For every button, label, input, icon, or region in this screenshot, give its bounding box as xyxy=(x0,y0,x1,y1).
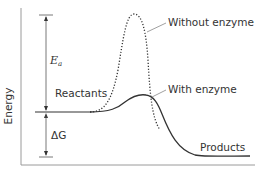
without-enzyme-leader xyxy=(147,23,166,32)
with-enzyme-leader xyxy=(152,90,166,97)
dg-arrow-head-bottom xyxy=(44,151,48,156)
energy-diagram: Energy Ea ΔG Without enzyme With enzyme … xyxy=(0,0,261,175)
reactants-label: Reactants xyxy=(55,87,107,99)
ea-arrow-head-bottom xyxy=(44,106,48,111)
products-label: Products xyxy=(200,141,245,153)
with-enzyme-label: With enzyme xyxy=(168,83,237,95)
ea-label: Ea xyxy=(49,54,62,68)
y-axis-label: Energy xyxy=(2,88,14,125)
ea-arrow-head-top xyxy=(44,16,48,21)
without-enzyme-curve xyxy=(90,14,160,130)
without-enzyme-label: Without enzyme xyxy=(168,16,254,28)
delta-g-label: ΔG xyxy=(51,129,66,141)
